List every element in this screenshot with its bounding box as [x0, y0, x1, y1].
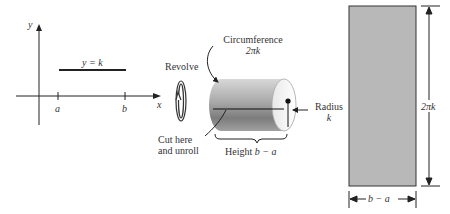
height-dimension-line	[421, 6, 440, 186]
cut-label-line2: and unroll	[158, 145, 199, 156]
height-brace	[215, 134, 287, 143]
circumference-value: 2πk	[213, 45, 293, 56]
y-axis-label: y	[28, 19, 32, 30]
circumference-text: Circumference	[213, 34, 293, 45]
coordinate-axes	[16, 24, 161, 125]
cut-label-line1: Cut here	[158, 134, 199, 145]
height-value: b − a	[255, 146, 277, 157]
diagram-canvas	[0, 0, 450, 214]
circumference-label: Circumference 2πk	[213, 34, 293, 56]
rectangle-width-label: b − a	[368, 193, 390, 204]
radius-text: Radius	[309, 101, 349, 112]
x-axis-label: x	[157, 99, 161, 110]
tick-label-a: a	[55, 103, 60, 114]
rectangle-height-label: 2πk	[421, 101, 435, 112]
cut-label: Cut here and unroll	[158, 134, 199, 156]
revolve-arrow-icon	[176, 81, 186, 121]
cylinder	[209, 79, 296, 131]
line-label: y = k	[82, 57, 103, 68]
radius-label: Radius k	[309, 101, 349, 123]
tick-label-b: b	[122, 103, 127, 114]
unrolled-rectangle	[349, 6, 416, 186]
height-label: Height b − a	[225, 146, 276, 157]
revolve-label: Revolve	[165, 61, 198, 72]
height-text: Height	[225, 146, 252, 157]
radius-value: k	[309, 112, 349, 123]
